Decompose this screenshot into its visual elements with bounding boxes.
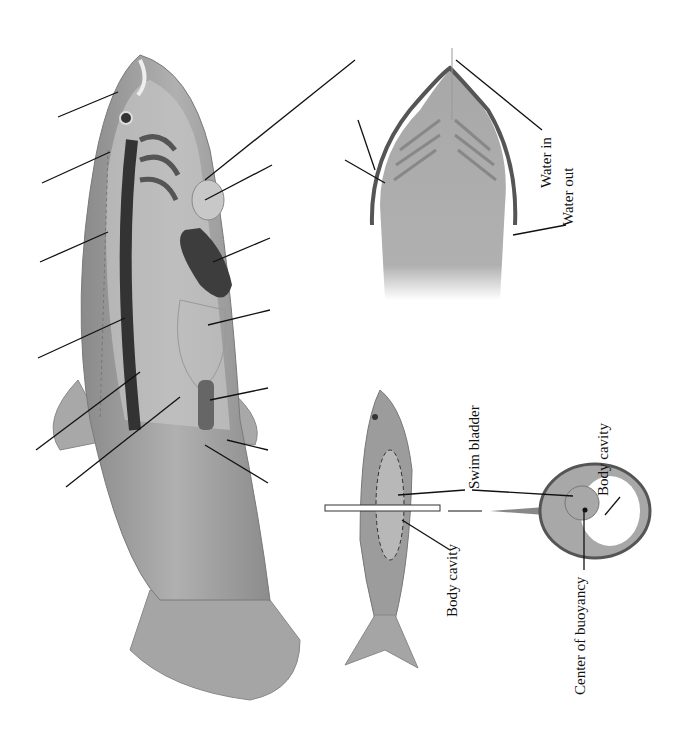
label-body-cavity-section: Body cavity (595, 423, 612, 496)
label-water-in: Water in (538, 137, 555, 188)
dorsal-spine (490, 507, 545, 515)
eye (120, 112, 132, 124)
leader-gill-1 (358, 120, 375, 170)
leader-body-cavity-fish (402, 520, 450, 550)
dissected-fish (36, 55, 355, 700)
section-plane (325, 505, 440, 511)
center-of-buoyancy-dot (583, 508, 588, 513)
intestine (198, 380, 214, 430)
label-center-of-buoyancy: Center of buoyancy (572, 577, 589, 695)
label-swim-bladder: Swim bladder (466, 405, 483, 489)
fish-tail-fin (130, 590, 300, 700)
small-fish-eye (372, 414, 378, 420)
cross-section-swim-bladder (565, 486, 599, 520)
leader-water-out (513, 225, 566, 235)
label-body-cavity-fish: Body cavity (444, 544, 461, 617)
label-water-out: Water out (560, 168, 577, 226)
heart (192, 180, 224, 220)
small-fish-tail (345, 615, 418, 668)
gill-flow-diagram (345, 48, 566, 300)
head-outline (380, 70, 506, 300)
